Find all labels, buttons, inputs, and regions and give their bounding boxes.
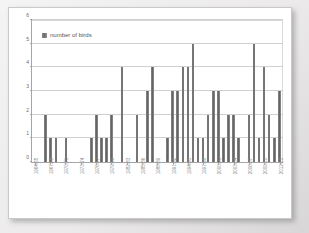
bar [182,67,185,162]
bar [263,67,266,162]
bar [110,115,113,162]
bar-series [32,20,283,162]
x-axis-tick-label: 2012/13 [280,158,285,175]
bar [136,115,139,162]
legend-swatch-icon [42,33,47,38]
bar-slot [277,20,282,162]
bar [258,138,261,162]
bar [121,67,124,162]
y-axis-tick-label: 0 [26,155,29,160]
bar [268,115,271,162]
bar [227,115,230,162]
bar [55,138,58,162]
bar [232,115,235,162]
bar [197,138,200,162]
bar [151,67,154,162]
bar [212,91,215,162]
y-axis-tick-label: 6 [26,13,29,18]
legend-label: number of birds [50,32,92,38]
bar [187,67,190,162]
bar [171,91,174,162]
y-axis-tick-label: 3 [26,84,29,89]
bar [207,115,210,162]
bar [105,138,108,162]
chart-panel: 0123456 1964/651967/681970/711973/741976… [8,7,292,219]
bar [217,91,220,162]
x-axis-tick: 2012/13 [277,163,282,218]
bar [95,115,98,162]
plot-area: 0123456 [31,20,283,163]
bar [146,91,149,162]
bar [273,138,276,162]
bar [253,44,256,162]
bar [192,44,195,162]
x-axis-labels: 1964/651967/681970/711973/741976/771979/… [31,163,283,218]
y-axis-tick-label: 2 [26,107,29,112]
bar [278,91,281,162]
bar [176,91,179,162]
screenshot-root: 0123456 1964/651967/681970/711973/741976… [0,0,309,233]
y-axis-tick-label: 5 [26,36,29,41]
bar [44,115,47,162]
chart-legend: number of birds [39,30,96,40]
bar [90,138,93,162]
y-axis-tick-label: 1 [26,131,29,136]
bar [248,115,251,162]
bar [166,138,169,162]
bar [100,138,103,162]
y-axis-tick-label: 4 [26,60,29,65]
